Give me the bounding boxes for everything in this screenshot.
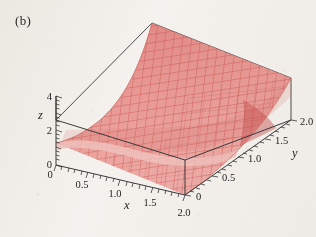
y-tick-label-1p5: 1.5 xyxy=(275,135,288,146)
z-axis-label: z xyxy=(38,108,43,123)
z-axis-ticks xyxy=(56,96,62,167)
x-axis-label: x xyxy=(124,198,130,213)
surface-plot-figure: (b) xyxy=(0,0,316,237)
y-tick-label-1p0: 1.0 xyxy=(248,153,261,164)
z-tick-label-4: 4 xyxy=(47,91,53,102)
y-tick-label-2p0: 2.0 xyxy=(300,116,313,127)
y-tick-label-0p5: 0.5 xyxy=(222,172,235,183)
y-tick-label-0: 0 xyxy=(196,191,201,202)
x-tick-label-2p0: 2.0 xyxy=(177,207,190,218)
x-tick-label-1p0: 1.0 xyxy=(108,188,121,199)
plot-canvas: 4 2 0 0 0.5 1.0 1.5 xyxy=(0,0,316,237)
y-axis-label: y xyxy=(292,146,298,161)
x-tick-label-1p5: 1.5 xyxy=(143,197,156,208)
z-axis: 4 2 0 xyxy=(47,91,62,170)
x-tick-label-0p5: 0.5 xyxy=(75,179,88,190)
z-tick-label-2: 2 xyxy=(47,125,52,136)
x-tick-label-0: 0 xyxy=(47,169,52,180)
